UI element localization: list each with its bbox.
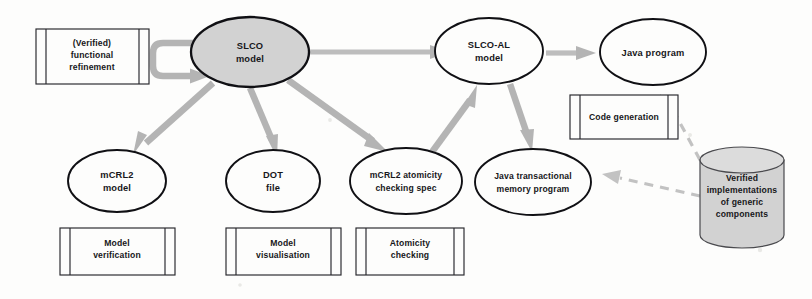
diagram-canvas: (Verified) functional refinement Model v… — [0, 0, 812, 299]
slco-al-model-line2: model — [475, 53, 503, 63]
node-mcrl2-model: mCRL2 model — [68, 150, 166, 212]
functional-refinement-line3: refinement — [69, 62, 114, 72]
verified-components-line3: of generic — [721, 197, 764, 207]
slco-model-line2: model — [236, 54, 264, 64]
node-slco-model: SLCO model — [191, 17, 309, 87]
java-program-label: Java program — [622, 48, 685, 58]
workflow-diagram: (Verified) functional refinement Model v… — [0, 0, 812, 299]
mcrl2-atomicity-spec-line1: mCRL2 atomicity — [370, 170, 443, 180]
slco-model-line1: SLCO — [237, 41, 263, 51]
node-java-tm-program: Java transactional memory program — [475, 149, 591, 215]
atomicity-checking-line2: checking — [391, 250, 429, 260]
model-visualisation-line2: visualisation — [256, 250, 310, 260]
node-java-program: Java program — [600, 19, 706, 85]
slco-al-model-line1: SLCO-AL — [468, 40, 511, 50]
verified-components-line1: Verified — [726, 173, 758, 183]
node-mcrl2-atomicity-spec: mCRL2 atomicity checking spec — [350, 148, 462, 214]
edge-slco-to-atomicity-spec — [288, 80, 388, 152]
process-box-atomicity-checking: Atomicity checking — [356, 228, 464, 275]
node-dot-file: DOT file — [226, 150, 320, 212]
edge-slco-to-dot-file — [250, 88, 278, 158]
verified-components-line2: implementations — [707, 185, 778, 195]
functional-refinement-line1: (Verified) — [73, 38, 111, 48]
java-tm-program-line1: Java transactional — [494, 171, 572, 181]
functional-refinement-line2: functional — [71, 50, 114, 60]
model-verification-line1: Model — [104, 238, 130, 248]
atomicity-checking-line1: Atomicity — [390, 238, 431, 248]
edge-slco-al-to-java-tm — [510, 84, 534, 152]
process-box-model-visualisation: Model visualisation — [226, 228, 341, 275]
mcrl2-model-line1: mCRL2 — [100, 170, 133, 180]
code-generation-label: Code generation — [589, 112, 659, 122]
edge-atomicity-spec-to-slco-al — [432, 85, 477, 152]
edge-components-to-java-tm — [602, 170, 700, 196]
node-slco-al-model: SLCO-AL model — [435, 18, 543, 84]
dot-file-line1: DOT — [263, 170, 283, 180]
edge-slco-to-mcrl2-model — [133, 83, 213, 155]
verified-components-line4: components — [716, 209, 769, 219]
mcrl2-atomicity-spec-line2: checking spec — [375, 183, 436, 193]
model-visualisation-line1: Model — [270, 238, 296, 248]
edge-slco-to-slco-al — [293, 45, 450, 59]
java-tm-program-line2: memory program — [497, 184, 570, 194]
node-verified-components: Verified implementations of generic comp… — [700, 147, 784, 248]
dot-file-line2: file — [266, 183, 280, 193]
process-box-functional-refinement: (Verified) functional refinement — [36, 29, 149, 84]
model-verification-line2: verification — [93, 250, 141, 260]
mcrl2-model-line2: model — [103, 183, 131, 193]
edge-slco-al-to-java — [546, 46, 596, 60]
process-box-model-verification: Model verification — [60, 228, 175, 275]
process-box-code-generation: Code generation — [570, 95, 678, 139]
